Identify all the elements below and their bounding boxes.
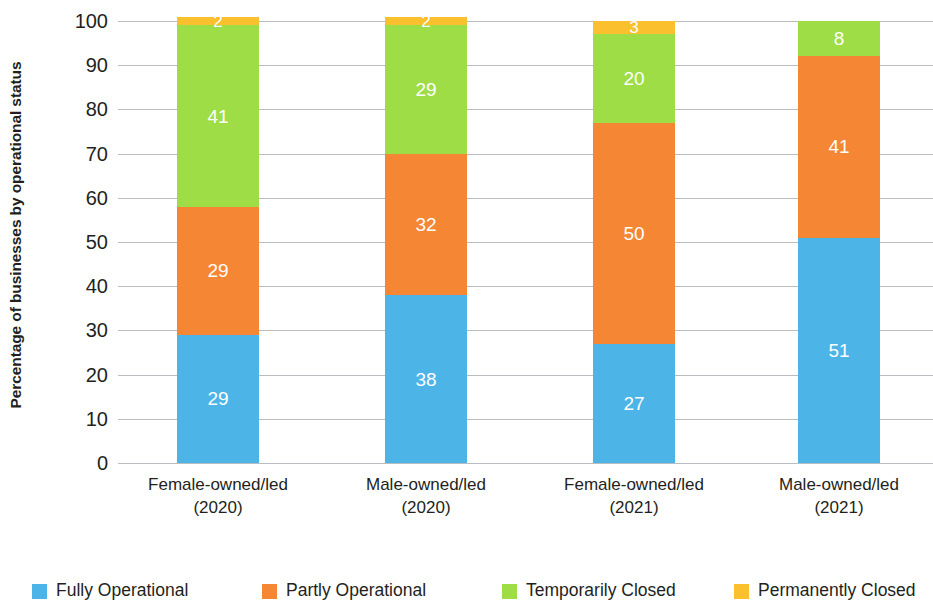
bar-segment-value: 27 (623, 394, 644, 413)
x-axis-label-line2: (2021) (719, 497, 933, 520)
bar-segment-value: 32 (415, 215, 436, 234)
y-tick-label-20: 20 (62, 365, 108, 385)
bar-segment[interactable]: 32 (385, 154, 467, 295)
gridline-0 (118, 463, 933, 464)
y-tick-label-70: 70 (62, 144, 108, 164)
bar-segment-value: 8 (834, 29, 845, 48)
bar-group[interactable]: 51418 (798, 21, 880, 463)
y-tick-label-0: 0 (62, 453, 108, 473)
bar-segment[interactable]: 29 (177, 335, 259, 463)
bar-segment[interactable]: 51 (798, 238, 880, 463)
bar-segment[interactable]: 3 (593, 21, 675, 34)
chart-legend: Fully OperationalPartly OperationalTempo… (0, 578, 933, 609)
bar-segment-value: 50 (623, 224, 644, 243)
bar-segment[interactable]: 50 (593, 123, 675, 344)
y-tick-label-100: 100 (62, 11, 108, 31)
plot-area: 29294123832292275020351418 (118, 21, 933, 463)
bar-segment-value: 51 (828, 341, 849, 360)
x-axis-label-line1: Female-owned/led (564, 475, 704, 494)
x-axis-label: Male-owned/led(2020) (306, 474, 546, 520)
bar-segment[interactable]: 2 (385, 17, 467, 26)
bar-segment-value: 41 (207, 107, 228, 126)
legend-item[interactable]: Partly Operational (262, 578, 426, 604)
x-axis-label-line2: (2021) (514, 497, 754, 520)
legend-label: Permanently Closed (758, 582, 916, 600)
y-tick-label-50: 50 (62, 232, 108, 252)
y-axis-title-text: Percentage of businesses by operational … (7, 62, 25, 409)
bar-segment-value: 29 (207, 389, 228, 408)
y-tick-label-80: 80 (62, 99, 108, 119)
legend-label: Fully Operational (56, 582, 188, 600)
bar-segment-value: 3 (629, 19, 638, 36)
legend-swatch-icon (32, 584, 47, 599)
legend-swatch-icon (262, 584, 277, 599)
x-axis-label-line2: (2020) (306, 497, 546, 520)
legend-label: Partly Operational (286, 582, 426, 600)
bar-segment[interactable]: 29 (385, 25, 467, 153)
bar-segment[interactable]: 20 (593, 34, 675, 122)
y-tick-label-30: 30 (62, 320, 108, 340)
x-axis-label-line1: Male-owned/led (779, 475, 899, 494)
legend-item[interactable]: Fully Operational (32, 578, 188, 604)
x-axis-label: Female-owned/led(2021) (514, 474, 754, 520)
legend-swatch-icon (502, 584, 517, 599)
legend-swatch-icon (734, 584, 749, 599)
x-axis-label: Male-owned/led(2021) (719, 474, 933, 520)
x-axis-label-line1: Female-owned/led (148, 475, 288, 494)
bar-segment[interactable]: 29 (177, 207, 259, 335)
x-axis-label: Female-owned/led(2020) (98, 474, 338, 520)
bar-segment[interactable]: 27 (593, 344, 675, 463)
stacked-bar-chart: Percentage of businesses by operational … (0, 0, 933, 609)
bar-segment-value: 41 (828, 137, 849, 156)
y-tick-label-10: 10 (62, 409, 108, 429)
y-axis-title: Percentage of businesses by operational … (0, 0, 32, 470)
legend-item[interactable]: Permanently Closed (734, 578, 916, 604)
bar-group[interactable]: 3832292 (385, 21, 467, 463)
bar-segment[interactable]: 38 (385, 295, 467, 463)
bar-group[interactable]: 2929412 (177, 21, 259, 463)
legend-item[interactable]: Temporarily Closed (502, 578, 676, 604)
bar-segment[interactable]: 8 (798, 21, 880, 56)
y-tick-label-90: 90 (62, 55, 108, 75)
x-axis-label-line2: (2020) (98, 497, 338, 520)
y-tick-label-40: 40 (62, 276, 108, 296)
bar-segment-value: 20 (623, 69, 644, 88)
y-tick-label-60: 60 (62, 188, 108, 208)
x-axis-label-line1: Male-owned/led (366, 475, 486, 494)
bar-segment[interactable]: 41 (798, 56, 880, 237)
bar-segment-value: 29 (415, 80, 436, 99)
y-axis-tick-labels: 1009080706050403020100 (52, 21, 108, 463)
legend-label: Temporarily Closed (526, 582, 676, 600)
bar-segment-value: 38 (415, 370, 436, 389)
bar-group[interactable]: 2750203 (593, 21, 675, 463)
bar-segment[interactable]: 41 (177, 25, 259, 206)
bar-segment-value: 29 (207, 261, 228, 280)
bar-segment[interactable]: 2 (177, 17, 259, 26)
